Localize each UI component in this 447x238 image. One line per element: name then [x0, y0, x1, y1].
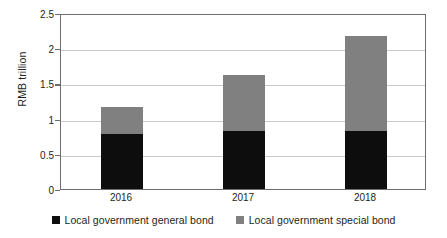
legend-item[interactable]: Local government special bond [236, 214, 396, 226]
plot-area [60, 14, 426, 190]
y-axis-tick-label: 0.5 [28, 149, 54, 160]
legend-label: Local government general bond [65, 214, 214, 226]
x-axis-tick-label: 2018 [335, 192, 395, 203]
x-axis-tick-label: 2016 [91, 192, 151, 203]
y-axis-tick-label: 0 [28, 185, 54, 196]
chart-legend: Local government general bondLocal gover… [0, 210, 447, 230]
bar-segment[interactable] [101, 134, 143, 189]
bar-segment[interactable] [223, 75, 265, 131]
legend-label: Local government special bond [249, 214, 396, 226]
bar-segment[interactable] [345, 36, 387, 131]
y-axis-tick-label: 2.5 [28, 9, 54, 20]
y-axis-tick-label: 1 [28, 114, 54, 125]
y-axis-tickmark [55, 190, 60, 191]
bar-group[interactable] [101, 13, 143, 189]
legend-swatch-icon [52, 216, 60, 224]
x-axis-tick-label: 2017 [213, 192, 273, 203]
y-axis-tick-labels: 00.511.522.5 [24, 0, 54, 238]
y-axis-tick-label: 2 [28, 44, 54, 55]
bar-group[interactable] [345, 13, 387, 189]
bar-group[interactable] [223, 13, 265, 189]
bar-segment[interactable] [345, 131, 387, 189]
chart-figure: RMB trillion 00.511.522.5 201620172018 L… [0, 0, 447, 238]
bar-segment[interactable] [101, 107, 143, 134]
x-axis-tick-labels: 201620172018 [60, 192, 426, 208]
bar-segment[interactable] [223, 131, 265, 189]
legend-swatch-icon [236, 216, 244, 224]
y-axis-tick-label: 1.5 [28, 79, 54, 90]
legend-item[interactable]: Local government general bond [52, 214, 214, 226]
